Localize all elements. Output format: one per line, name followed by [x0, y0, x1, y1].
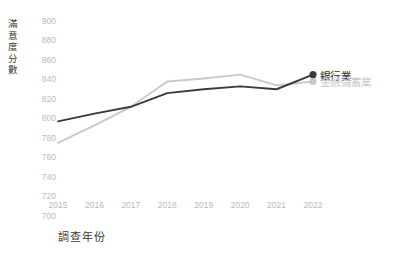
series-end-marker — [309, 71, 316, 78]
satisfaction-line-chart: 滿 意 度 分 數 900880860840820800780760740720… — [0, 0, 420, 260]
x-axis-title: 調查年份 — [58, 228, 106, 244]
plot-area — [0, 0, 420, 260]
series-end-marker — [309, 78, 316, 85]
series-line — [58, 75, 313, 122]
legend-item-savings[interactable]: 金融儲蓄業 — [320, 74, 372, 89]
series-line — [58, 75, 313, 143]
